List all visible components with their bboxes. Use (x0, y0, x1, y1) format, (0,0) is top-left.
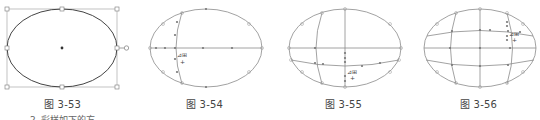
svg-text:+: + (350, 74, 355, 81)
svg-text:+: + (512, 36, 517, 43)
caption-fig-3-54: 图 3-54 (186, 96, 223, 111)
fig-3-54-artwork: ⊿⊞ + (149, 8, 264, 88)
fig-3-53-artwork (5, 7, 129, 89)
svg-text:+: + (180, 58, 185, 65)
caption-fig-3-55: 图 3-55 (325, 96, 362, 111)
footer-partial-text: 2. 彩样如下的方 (30, 113, 95, 120)
caption-fig-3-53: 图 3-53 (44, 96, 81, 111)
svg-text:⊿⊞: ⊿⊞ (177, 51, 187, 58)
fig-3-56-artwork: ⊿⊞ + (424, 8, 536, 89)
fig-3-55-artwork: ⊿⊞ + (288, 8, 403, 89)
caption-fig-3-56: 图 3-56 (460, 96, 497, 111)
